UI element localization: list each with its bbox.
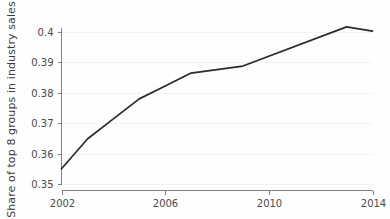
chart-plot-area: 0.350.360.370.380.390.4 2002200620102014 — [0, 0, 390, 219]
y-tick-label: 0.38 — [31, 88, 53, 99]
x-tick-label: 2010 — [257, 198, 282, 209]
y-tick-label: 0.4 — [38, 27, 54, 38]
line-chart: Share of top 8 groups in industry sales … — [0, 0, 390, 219]
x-tick-label: 2002 — [50, 198, 75, 209]
y-tick-label: 0.36 — [31, 149, 53, 160]
y-tick-label: 0.35 — [31, 179, 53, 190]
y-axis-ticks: 0.350.360.370.380.390.4 — [31, 27, 61, 190]
axis-lines — [62, 28, 373, 191]
data-series-line — [62, 27, 373, 169]
y-tick-label: 0.39 — [31, 57, 53, 68]
x-axis-ticks: 2002200620102014 — [50, 191, 386, 210]
x-tick-label: 2006 — [153, 198, 178, 209]
x-tick-label: 2014 — [361, 198, 386, 209]
gridlines — [62, 33, 373, 185]
y-tick-label: 0.37 — [31, 118, 53, 129]
